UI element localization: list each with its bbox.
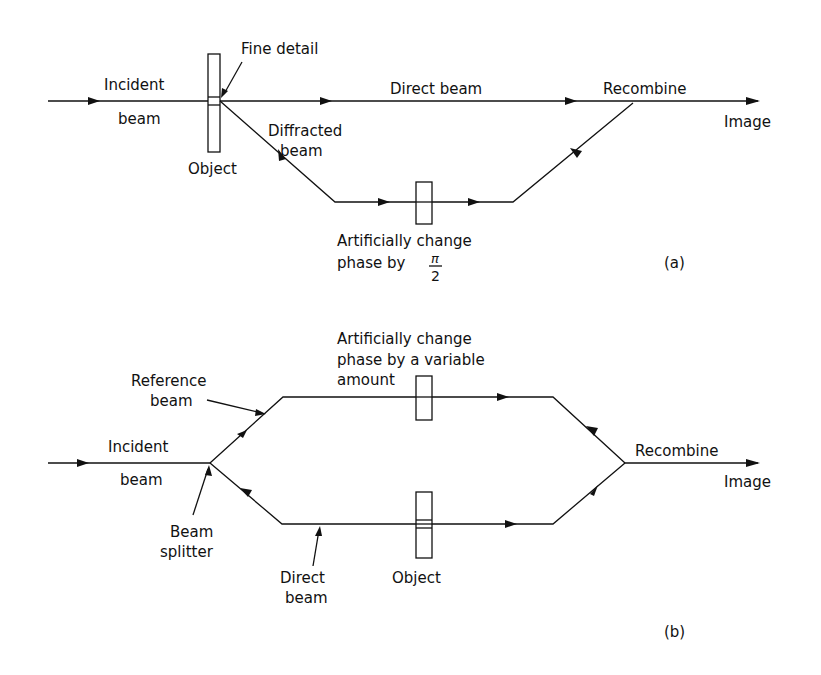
direct-beam-label: Direct beam xyxy=(390,80,482,98)
fine-detail-label: Fine detail xyxy=(241,40,318,58)
image-label: Image xyxy=(724,473,771,491)
arrow-icon xyxy=(315,526,322,536)
incident-label: Incident xyxy=(104,76,165,94)
phase-label-3: amount xyxy=(337,371,395,389)
reference-label-2: beam xyxy=(150,392,193,410)
reference-pointer xyxy=(207,400,262,413)
arrow-icon xyxy=(497,393,509,401)
object-label: Object xyxy=(188,160,237,178)
arrow-icon xyxy=(746,97,760,105)
phase-label-2: phase by a variable xyxy=(337,351,485,369)
incident-label: Incident xyxy=(108,438,169,456)
diffracted-label-2: beam xyxy=(280,142,323,160)
phase-label: Artificially change xyxy=(337,330,472,348)
arrow-icon xyxy=(205,465,212,476)
phase-contrast-diagram: Incident beam Fine detail Object Direct … xyxy=(0,0,821,675)
splitter-label: Beam xyxy=(170,523,213,541)
diffracted-label: Diffracted xyxy=(268,122,342,140)
recombine-label: Recombine xyxy=(603,80,686,98)
arrow-icon xyxy=(378,198,390,206)
incident-label-2: beam xyxy=(120,471,163,489)
panel-label-a: (a) xyxy=(664,254,685,272)
object-label: Object xyxy=(392,569,441,587)
arrow-icon xyxy=(590,485,598,496)
arrow-icon xyxy=(255,409,266,416)
denominator: 2 xyxy=(431,268,440,284)
object-box xyxy=(208,54,220,152)
direct-label: Direct xyxy=(280,569,325,587)
pi-symbol: π xyxy=(431,251,439,266)
object-box xyxy=(416,492,432,558)
arrow-icon xyxy=(88,97,100,105)
incident-label-2: beam xyxy=(118,110,161,128)
diagram-a: Incident beam Fine detail Object Direct … xyxy=(48,40,771,284)
phase-plate-box xyxy=(416,182,432,224)
arrow-icon xyxy=(468,198,480,206)
arrow-icon xyxy=(746,459,760,467)
recombine-label: Recombine xyxy=(635,442,718,460)
panel-label-b: (b) xyxy=(664,623,685,641)
arrow-icon xyxy=(586,426,598,436)
fine-detail-pointer xyxy=(224,62,242,94)
direct-label-2: beam xyxy=(285,589,328,607)
arrow-icon xyxy=(320,97,332,105)
reference-label: Reference xyxy=(131,372,207,390)
arrow-icon xyxy=(77,459,89,467)
arrow-icon xyxy=(240,488,252,497)
phase-label: Artificially change xyxy=(337,232,472,250)
splitter-label-2: splitter xyxy=(160,543,214,561)
arrow-icon xyxy=(565,97,577,105)
diagram-b: Artificially change phase by a variable … xyxy=(48,330,771,641)
arrow-icon xyxy=(505,520,517,528)
image-label: Image xyxy=(724,113,771,131)
splitter-pointer xyxy=(193,469,208,515)
variable-phase-plate xyxy=(416,376,432,420)
phase-label-2: phase by xyxy=(337,254,406,272)
